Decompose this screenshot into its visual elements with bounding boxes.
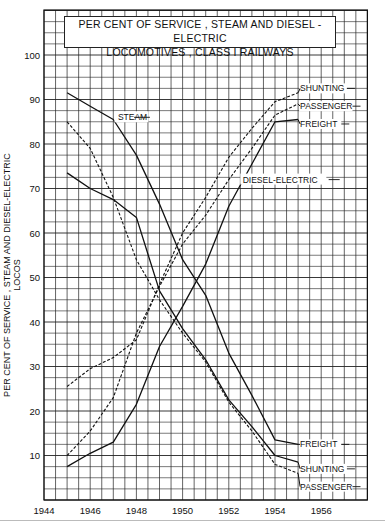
- line-label-diesel-electric-freight: FREIGHT: [300, 119, 337, 129]
- line-label-steam-shunting: SHUNTING: [300, 464, 344, 474]
- line-label-steam-passenger: PASSENGER: [300, 482, 352, 492]
- y-tick-label: 10: [29, 450, 40, 461]
- chart-line-labels: FREIGHTPASSENGERSHUNTINGFREIGHTPASSENGER…: [114, 83, 360, 491]
- divider: [0, 520, 385, 521]
- y-tick-label: 50: [29, 272, 40, 283]
- group-label-diesel: DIESEL-ELECTRIC: [243, 175, 318, 185]
- x-tick-label: 1952: [218, 505, 239, 516]
- chart-title-line-2: LOCOMOTIVES , CLASS I RAILWAYS: [65, 45, 335, 59]
- y-tick-label: 30: [29, 361, 40, 372]
- x-tick-label: 1944: [33, 505, 54, 516]
- y-tick-label: 80: [29, 139, 40, 150]
- line-chart: 1020304050607080901001944194619481950195…: [0, 0, 385, 526]
- y-tick-label: 40: [29, 317, 40, 328]
- x-tick-label: 1950: [172, 505, 193, 516]
- x-tick-label: 1954: [264, 505, 285, 516]
- line-label-diesel-electric-passenger: PASSENGER: [300, 101, 352, 111]
- x-tick-label: 1946: [80, 505, 101, 516]
- y-tick-label: 100: [24, 50, 40, 61]
- chart-title: PER CENT OF SERVICE , STEAM AND DIESEL -…: [64, 16, 336, 48]
- y-tick-label: 70: [29, 183, 40, 194]
- line-label-steam-freight: FREIGHT: [300, 439, 337, 449]
- y-tick-label: 90: [29, 94, 40, 105]
- y-axis-label: PER CENT OF SERVICE , STEAM AND DIESEL-E…: [2, 145, 22, 405]
- y-tick-label: 20: [29, 406, 40, 417]
- x-tick-label: 1956: [311, 505, 332, 516]
- x-tick-label: 1948: [126, 505, 147, 516]
- line-label-diesel-electric-shunting: SHUNTING: [300, 83, 344, 93]
- y-tick-label: 60: [29, 228, 40, 239]
- chart-title-line-1: PER CENT OF SERVICE , STEAM AND DIESEL -…: [65, 17, 335, 45]
